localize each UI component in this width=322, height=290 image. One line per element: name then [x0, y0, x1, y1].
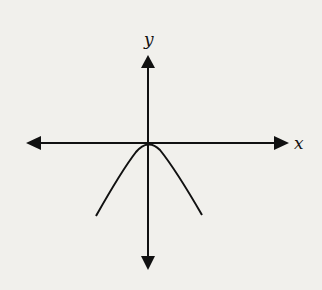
- x-axis-label: x: [294, 133, 304, 153]
- x-axis-right-arrow-icon: [274, 136, 289, 150]
- graph: y x: [0, 0, 322, 290]
- y-axis-down-arrow-icon: [141, 256, 155, 270]
- x-axis-left-arrow-icon: [26, 136, 41, 150]
- y-axis-up-arrow-icon: [141, 55, 155, 68]
- y-axis-label: y: [143, 29, 154, 49]
- y-axis: [141, 55, 155, 270]
